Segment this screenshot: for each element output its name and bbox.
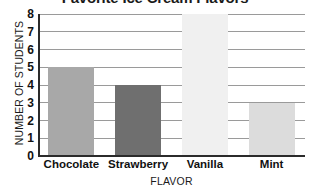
plot-area	[38, 14, 305, 156]
gridline	[38, 14, 305, 15]
x-axis-tick-label: Mint	[238, 158, 305, 170]
y-axis-tick-label: 2	[4, 115, 34, 127]
y-axis-tick-label: 1	[4, 132, 34, 144]
y-axis-line	[38, 14, 40, 156]
gridline	[38, 31, 305, 32]
bar-chocolate	[48, 67, 94, 156]
x-axis-tick-labels: ChocolateStrawberryVanillaMint	[38, 158, 305, 174]
y-axis-tick-label: 4	[4, 79, 34, 91]
bar-chart: Favorite Ice Cream Flavors NUMBER OF STU…	[0, 0, 310, 192]
y-axis-tick-label: 3	[4, 97, 34, 109]
y-axis-tick-label: 7	[4, 26, 34, 38]
y-axis-tick-label: 6	[4, 44, 34, 56]
x-axis-title: FLAVOR	[38, 175, 305, 187]
x-axis-line	[38, 155, 305, 157]
y-axis-tick-labels: 012345678	[0, 14, 34, 156]
x-axis-tick-label: Strawberry	[105, 158, 172, 170]
y-axis-tick-label: 0	[4, 150, 34, 162]
chart-title: Favorite Ice Cream Flavors	[0, 0, 310, 6]
x-axis-tick-label: Chocolate	[38, 158, 105, 170]
y-axis-tick-label: 8	[4, 8, 34, 20]
bar-strawberry	[115, 85, 161, 156]
bar-vanilla	[182, 14, 228, 156]
bar-mint	[249, 103, 295, 156]
x-axis-tick-label: Vanilla	[172, 158, 239, 170]
y-axis-tick-label: 5	[4, 61, 34, 73]
gridline	[38, 49, 305, 50]
